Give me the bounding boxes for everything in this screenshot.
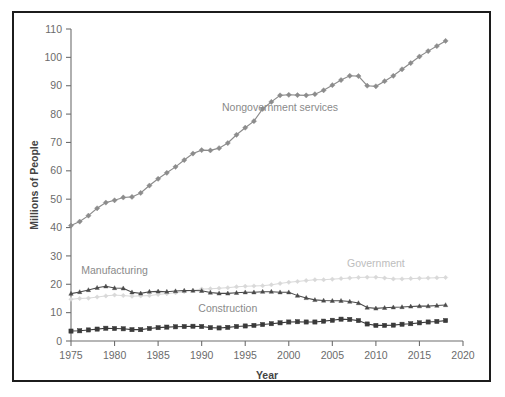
data-marker bbox=[426, 48, 431, 53]
data-marker bbox=[226, 285, 231, 290]
data-marker bbox=[321, 88, 326, 93]
data-marker bbox=[339, 317, 343, 321]
data-marker bbox=[86, 328, 90, 332]
series-construction bbox=[69, 317, 448, 333]
axis-titles-layer: YearMillions of People bbox=[28, 140, 278, 381]
y-tick-label: 20 bbox=[50, 278, 62, 290]
data-marker bbox=[330, 83, 335, 88]
y-tick-label: 30 bbox=[50, 250, 62, 262]
data-marker bbox=[304, 320, 308, 324]
series-line bbox=[71, 277, 446, 299]
data-marker bbox=[417, 276, 422, 281]
data-marker bbox=[338, 77, 343, 82]
series-annotation-manufacturing: Manufacturing bbox=[81, 264, 148, 276]
x-tick-label: 2010 bbox=[364, 349, 388, 361]
data-marker bbox=[121, 327, 125, 331]
data-marker bbox=[348, 317, 352, 321]
data-marker bbox=[443, 318, 447, 322]
data-marker bbox=[304, 278, 309, 283]
y-tick-label: 10 bbox=[50, 306, 62, 318]
data-marker bbox=[78, 329, 82, 333]
data-marker bbox=[252, 323, 256, 327]
y-tick-label: 80 bbox=[50, 108, 62, 120]
x-tick-label: 1995 bbox=[234, 349, 258, 361]
data-marker bbox=[312, 92, 317, 97]
data-marker bbox=[69, 297, 74, 302]
data-marker bbox=[173, 325, 177, 329]
series-annotation-nongovernment-services: Nongovernment services bbox=[222, 101, 338, 113]
data-marker bbox=[373, 84, 378, 89]
data-marker bbox=[295, 92, 300, 97]
data-marker bbox=[269, 322, 273, 326]
data-marker bbox=[260, 283, 265, 288]
data-marker bbox=[365, 275, 370, 280]
data-marker bbox=[86, 296, 91, 301]
data-marker bbox=[443, 38, 448, 43]
data-marker bbox=[139, 328, 143, 332]
y-tick-label: 70 bbox=[50, 136, 62, 148]
series-annotation-government: Government bbox=[347, 257, 405, 269]
data-marker bbox=[356, 275, 361, 280]
y-tick-label: 0 bbox=[56, 335, 62, 347]
data-marker bbox=[339, 276, 344, 281]
data-marker bbox=[208, 326, 212, 330]
data-marker bbox=[112, 198, 117, 203]
series-manufacturing bbox=[69, 284, 448, 310]
data-marker bbox=[287, 280, 292, 285]
series-annotation-construction: Construction bbox=[198, 302, 257, 314]
data-marker bbox=[121, 195, 126, 200]
x-axis-title: Year bbox=[256, 369, 278, 381]
data-marker bbox=[104, 326, 108, 330]
data-marker bbox=[104, 284, 108, 288]
data-marker bbox=[391, 323, 395, 327]
data-marker bbox=[321, 277, 326, 282]
x-tick-label: 2015 bbox=[408, 349, 432, 361]
data-marker bbox=[130, 294, 135, 299]
data-marker bbox=[382, 79, 387, 84]
data-marker bbox=[435, 275, 440, 280]
data-marker bbox=[356, 318, 360, 322]
x-tick-label: 1980 bbox=[103, 349, 127, 361]
data-marker bbox=[77, 296, 82, 301]
data-marker bbox=[217, 286, 222, 291]
data-marker bbox=[330, 277, 335, 282]
data-marker bbox=[304, 93, 309, 98]
data-marker bbox=[400, 322, 404, 326]
series-government bbox=[69, 275, 448, 302]
data-marker bbox=[295, 279, 300, 284]
series-line bbox=[71, 286, 446, 308]
chart-figure: 0102030405060708090100110197519801985199… bbox=[0, 0, 505, 397]
data-marker bbox=[147, 293, 152, 298]
data-marker bbox=[365, 322, 369, 326]
data-marker bbox=[295, 320, 299, 324]
x-tick-label: 2005 bbox=[321, 349, 345, 361]
data-marker bbox=[182, 324, 186, 328]
y-tick-label: 50 bbox=[50, 193, 62, 205]
data-marker bbox=[348, 276, 353, 281]
data-marker bbox=[121, 293, 126, 298]
series-line bbox=[71, 41, 446, 226]
data-marker bbox=[278, 281, 283, 286]
x-tick-label: 1985 bbox=[146, 349, 170, 361]
y-tick-label: 100 bbox=[44, 51, 62, 63]
annotation-layer: Nongovernment servicesManufacturingConst… bbox=[81, 101, 405, 314]
data-marker bbox=[200, 324, 204, 328]
y-tick-label: 60 bbox=[50, 164, 62, 176]
data-marker bbox=[104, 294, 109, 299]
series-layer bbox=[68, 38, 448, 333]
data-marker bbox=[130, 328, 134, 332]
data-marker bbox=[287, 320, 291, 324]
x-tick-label: 1975 bbox=[59, 349, 83, 361]
data-marker bbox=[216, 146, 221, 151]
data-marker bbox=[165, 325, 169, 329]
data-marker bbox=[156, 326, 160, 330]
data-marker bbox=[322, 319, 326, 323]
data-marker bbox=[426, 276, 431, 281]
data-marker bbox=[69, 329, 73, 333]
data-marker bbox=[347, 73, 352, 78]
data-marker bbox=[313, 320, 317, 324]
data-marker bbox=[234, 285, 239, 290]
series-nongovernment-services bbox=[68, 38, 448, 228]
data-marker bbox=[409, 322, 413, 326]
data-marker bbox=[313, 277, 318, 282]
